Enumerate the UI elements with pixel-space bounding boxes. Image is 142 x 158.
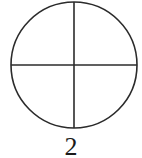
figure-caption: 2 bbox=[0, 134, 142, 158]
figure-container: 2 bbox=[0, 0, 142, 158]
